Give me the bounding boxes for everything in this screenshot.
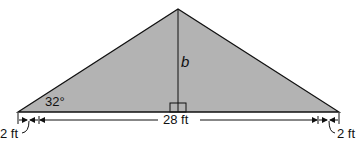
angle-label: 32° — [45, 94, 65, 109]
left-overhang-label: 2 ft — [0, 126, 18, 141]
height-label: b — [181, 53, 189, 70]
base-span-label: 28 ft — [163, 112, 189, 127]
right-overhang-label: 2 ft — [337, 126, 355, 141]
triangle-diagram: 32° b 28 ft 2 ft 2 ft — [0, 0, 364, 144]
